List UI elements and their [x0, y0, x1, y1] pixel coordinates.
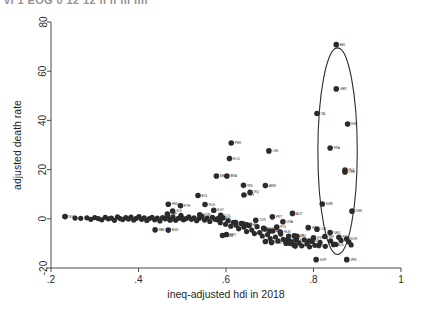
data-point-label: ARM: [269, 184, 276, 188]
data-point-label: BEL: [340, 43, 346, 47]
data-point-label: IRQ: [254, 190, 260, 194]
data-point-label: SLV: [176, 209, 183, 213]
data-point-label: SGP: [320, 258, 327, 262]
y-tick-label: 20: [38, 164, 49, 176]
data-point-label: PHL: [222, 218, 228, 222]
data-point: [290, 211, 296, 217]
data-point: [266, 148, 272, 154]
data-point-label: BGD: [172, 228, 179, 232]
data-point: [277, 229, 283, 235]
data-point: [152, 227, 158, 233]
data-point-label: RUS: [209, 203, 216, 207]
data-point-label: PER: [235, 141, 242, 145]
data-point-label: ROU: [275, 241, 282, 245]
data-point-label: ETH: [184, 204, 190, 208]
x-tick-label: 1: [398, 274, 404, 285]
data-point-label: JPN: [350, 258, 356, 262]
data-point: [195, 193, 201, 199]
data-point: [227, 156, 233, 162]
data-point-label: CHL: [272, 149, 278, 153]
data-point-label: IND: [174, 218, 180, 222]
data-point: [263, 183, 269, 189]
data-point-label: CHE: [349, 170, 356, 174]
data-point: [244, 222, 250, 228]
y-tick-label: -20: [38, 260, 49, 275]
data-point-label: PAN: [248, 193, 254, 197]
data-point: [179, 216, 185, 222]
data-point: [241, 183, 247, 189]
data-point-label: PRT: [276, 215, 282, 219]
data-point: [165, 201, 171, 207]
data-point: [165, 227, 171, 233]
data-point-label: KOR: [299, 244, 306, 248]
highlight-ellipse-layer: [318, 48, 357, 255]
x-axis-title: ineq-adjusted hdi in 2018: [167, 288, 285, 300]
data-point-label: AUT: [296, 212, 302, 216]
data-point-label: EST: [313, 239, 319, 243]
data-point-label: BOL: [202, 194, 208, 198]
data-point: [260, 233, 265, 238]
scatter-plot: BELGBRITAESPPERFRACHLECUNLDCHEMEXBRAIRNA…: [0, 0, 425, 316]
data-point: [215, 217, 221, 223]
data-point: [269, 240, 275, 246]
data-point: [316, 243, 322, 249]
data-point: [342, 169, 348, 175]
y-tick-label: 80: [38, 16, 49, 28]
data-point: [62, 214, 68, 220]
data-point: [202, 202, 208, 208]
data-point-label: FRA: [334, 146, 341, 150]
data-point: [261, 226, 267, 232]
data-point-label: ISR: [328, 235, 334, 239]
data-point-label: BRA: [230, 174, 237, 178]
data-point: [287, 240, 293, 246]
data-point-label: SWE: [326, 202, 333, 206]
data-point: [228, 140, 234, 146]
data-point-label: LUX: [321, 227, 327, 231]
data-point: [307, 244, 312, 249]
data-point: [233, 220, 239, 226]
data-point-label: EGY: [217, 208, 224, 212]
data-point: [197, 212, 203, 218]
data-point: [241, 192, 247, 198]
data-point: [236, 226, 241, 231]
y-tick-label: 60: [38, 65, 49, 77]
y-axis-title: adjusted death rate: [11, 100, 23, 190]
data-point: [305, 225, 311, 231]
data-point-label: ZAF: [171, 212, 177, 216]
data-point: [214, 173, 220, 179]
data-point: [267, 228, 273, 234]
data-point-label: TUR: [259, 218, 266, 222]
data-point-label: HUN: [284, 230, 291, 234]
data-point: [263, 239, 269, 245]
data-point-label: NZL: [322, 244, 328, 248]
data-point-label: POL: [280, 225, 286, 229]
data-point: [252, 231, 257, 236]
data-point: [270, 214, 276, 220]
data-point-label: DNK: [356, 209, 363, 213]
data-point: [331, 242, 337, 248]
data-point: [314, 226, 320, 232]
data-point-label: ECU: [233, 157, 240, 161]
data-point: [327, 145, 333, 151]
y-tick-label: 40: [38, 114, 49, 126]
data-point: [211, 207, 217, 213]
data-point-label: NGA: [69, 215, 77, 219]
data-point: [220, 233, 226, 239]
data-point-label: VNM: [226, 234, 233, 238]
x-tick-label: .4: [134, 274, 143, 285]
x-tick-label: .6: [222, 274, 231, 285]
data-point: [345, 121, 351, 127]
data-point-label: MAR: [186, 217, 194, 221]
x-tick-label: .8: [309, 274, 318, 285]
data-point-label: GBR: [340, 87, 347, 91]
x-tick-label: .2: [47, 274, 56, 285]
data-point: [292, 243, 298, 249]
data-point: [313, 257, 319, 263]
data-point: [167, 217, 173, 223]
data-point: [349, 242, 354, 247]
y-tick-label: 0: [38, 216, 49, 222]
data-point-label: IRN: [247, 184, 252, 188]
data-point-label: DEU: [334, 231, 341, 235]
data-point: [244, 229, 249, 234]
data-point-label: USA: [286, 220, 293, 224]
